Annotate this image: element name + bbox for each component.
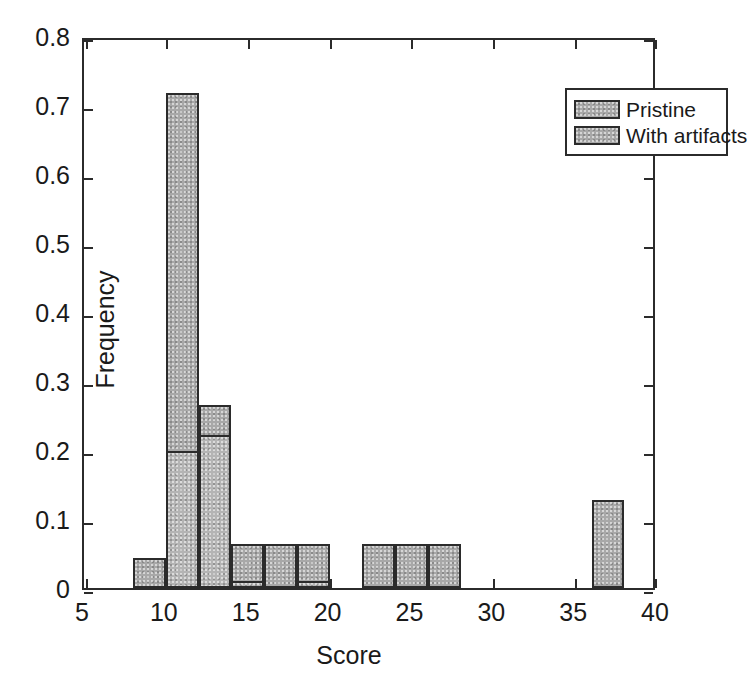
y-axis-tick-label: 0.5	[0, 232, 70, 257]
histogram-bar	[297, 581, 330, 588]
x-axis-tick	[655, 579, 657, 588]
y-axis-tick-label: 0.7	[0, 94, 70, 119]
y-axis-tick-right	[644, 40, 653, 42]
x-axis-tick-top	[411, 40, 413, 49]
y-axis-tick-right	[644, 178, 653, 180]
y-axis-tick	[84, 523, 93, 525]
x-axis-tick	[575, 579, 577, 588]
y-axis-tick-label: 0.4	[0, 301, 70, 326]
y-axis-tick-label: 0.1	[0, 508, 70, 533]
x-axis-tick	[330, 579, 332, 588]
histogram-bar	[231, 581, 264, 588]
x-axis-tick	[493, 579, 495, 588]
histogram-bar	[395, 544, 428, 588]
legend-item-pristine: Pristine	[574, 96, 719, 122]
histogram-bar	[166, 451, 199, 588]
plot-area: Pristine With artifacts Frequency	[82, 38, 655, 590]
y-axis-tick-right	[644, 454, 653, 456]
legend-swatch-with-artifacts	[574, 126, 620, 145]
x-axis-title: Score	[0, 641, 698, 670]
x-axis-tick	[86, 579, 88, 588]
x-axis-tick-top	[166, 40, 168, 49]
legend-label-pristine: Pristine	[626, 99, 696, 120]
legend-label-with-artifacts: With artifacts	[626, 125, 747, 146]
x-axis-tick-top	[493, 40, 495, 49]
histogram-bar	[199, 435, 232, 588]
legend-swatch-pristine	[574, 100, 620, 119]
y-axis-tick-right	[644, 592, 653, 594]
histogram-bar	[428, 544, 461, 588]
y-axis-tick	[84, 109, 93, 111]
x-axis-tick-top	[575, 40, 577, 49]
y-axis-tick-right	[644, 385, 653, 387]
histogram-bar	[362, 544, 395, 588]
histogram-bar	[133, 558, 166, 588]
y-axis-tick-label: 0.3	[0, 370, 70, 395]
x-axis-tick-top	[248, 40, 250, 49]
y-axis-title: Frequency	[91, 180, 120, 480]
histogram-bar	[264, 544, 297, 588]
y-axis-tick-label: 0.6	[0, 163, 70, 188]
y-axis-tick-label: 0	[0, 577, 70, 602]
x-axis-tick-top	[655, 40, 657, 49]
y-axis-tick-label: 0.2	[0, 439, 70, 464]
y-axis-tick-right	[644, 247, 653, 249]
x-axis-tick-top	[86, 40, 88, 49]
y-axis-tick-right	[644, 523, 653, 525]
y-axis-tick	[84, 592, 93, 594]
chart-legend: Pristine With artifacts	[565, 88, 728, 156]
legend-item-with-artifacts: With artifacts	[574, 122, 719, 148]
y-axis-tick-label: 0.8	[0, 25, 70, 50]
x-axis-tick-label: 40	[605, 600, 705, 625]
x-axis-tick-top	[330, 40, 332, 49]
histogram-bar	[592, 500, 625, 588]
y-axis-tick-right	[644, 316, 653, 318]
